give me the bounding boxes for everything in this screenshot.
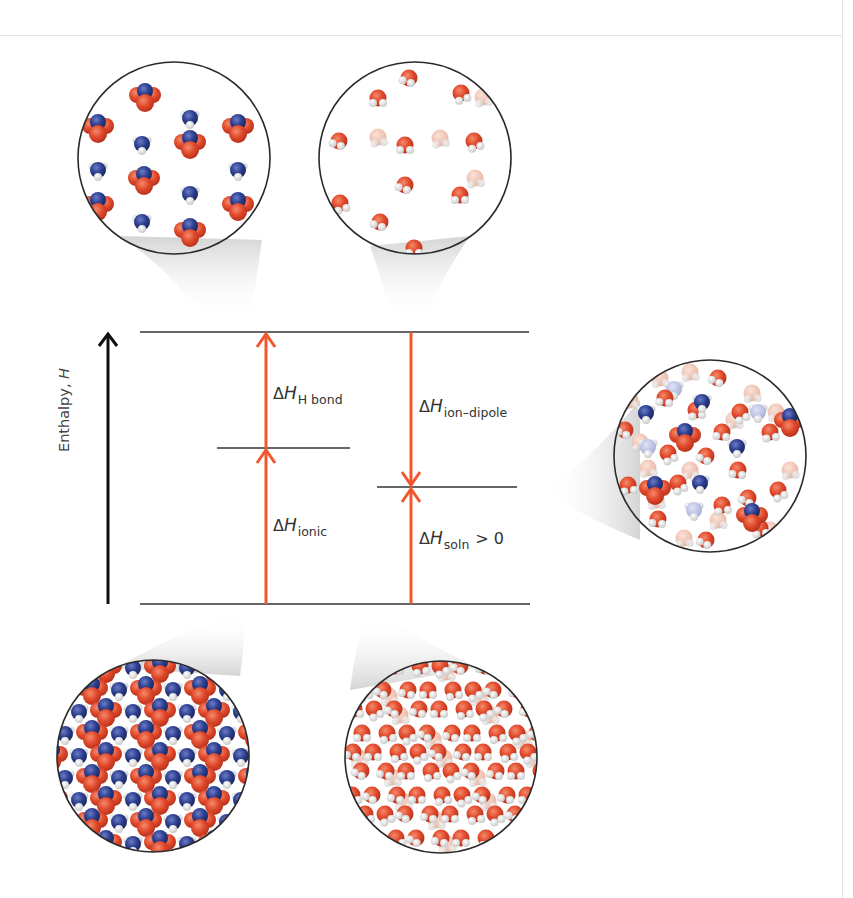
enthalpy-arrows bbox=[257, 332, 420, 604]
circle-separated-ions bbox=[78, 62, 270, 254]
label-delta-h-ionic: ΔHionic bbox=[273, 515, 327, 535]
zoom-beams bbox=[115, 236, 640, 690]
axis-label-enthalpy: Enthalpy, H bbox=[56, 350, 72, 470]
arrow-delta-h-soln bbox=[402, 489, 420, 604]
enthalpy-axis bbox=[99, 334, 117, 604]
arrow-delta-h-ion-dipole bbox=[402, 332, 420, 485]
enthalpy-diagram bbox=[0, 0, 853, 898]
label-delta-h-h-bond: ΔHH bond bbox=[273, 383, 343, 403]
label-delta-h-ion-dipole: ΔHion–dipole bbox=[419, 396, 507, 416]
label-delta-h-soln: ΔHsoln> 0 bbox=[419, 528, 504, 548]
molecules-separated-ions bbox=[82, 83, 254, 247]
molecules-ionic-solid bbox=[36, 654, 270, 859]
molecules-liquid-water bbox=[340, 658, 552, 854]
beam-liquid-water bbox=[350, 615, 478, 690]
energy-levels bbox=[140, 332, 530, 604]
beam-solution bbox=[545, 400, 640, 540]
molecules-separated-water bbox=[329, 70, 493, 258]
